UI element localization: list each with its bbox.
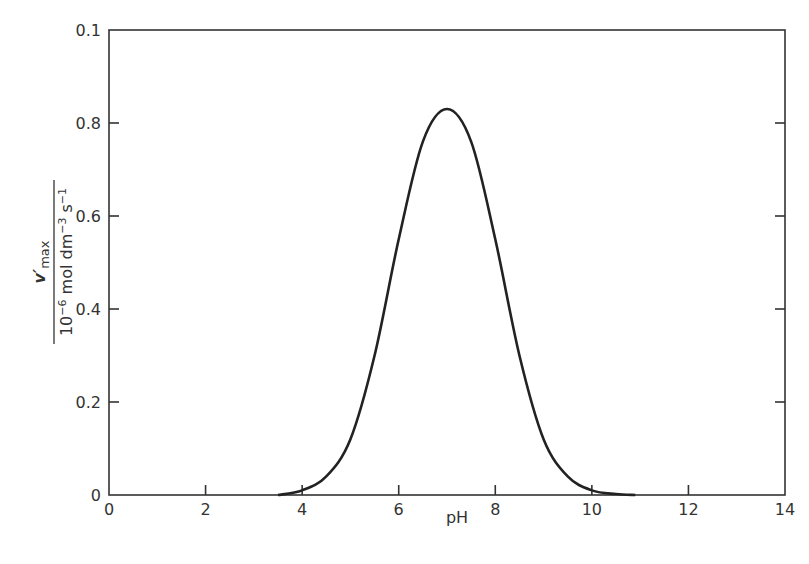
x-tick-label: 6 bbox=[394, 500, 404, 519]
y-axis-label-numerator: v′max bbox=[30, 240, 52, 283]
x-tick-label: 4 bbox=[297, 500, 307, 519]
x-tick-label: 2 bbox=[200, 500, 210, 519]
x-tick-label: 12 bbox=[678, 500, 698, 519]
y-tick-label: 0.6 bbox=[76, 207, 101, 226]
chart: 02468101214 00.20.40.60.80.1 pH v′max 10… bbox=[0, 0, 809, 564]
y-axis-label-denominator: 10−6 mol dm−3 s−1 bbox=[56, 188, 76, 336]
y-tick-label: 0.1 bbox=[76, 21, 101, 40]
y-tick-label: 0.4 bbox=[76, 300, 101, 319]
data-curve bbox=[278, 109, 635, 495]
y-tick-label: 0.2 bbox=[76, 393, 101, 412]
x-tick-label: 8 bbox=[490, 500, 500, 519]
plot-border bbox=[109, 30, 785, 495]
plot-frame bbox=[109, 30, 785, 495]
y-axis: 00.20.40.60.80.1 bbox=[76, 21, 785, 505]
x-tick-label: 10 bbox=[582, 500, 602, 519]
y-tick-label: 0 bbox=[91, 486, 101, 505]
x-tick-label: 0 bbox=[104, 500, 114, 519]
x-tick-label: 14 bbox=[775, 500, 795, 519]
y-tick-label: 0.8 bbox=[76, 114, 101, 133]
x-axis-label: pH bbox=[446, 508, 468, 527]
y-axis-label: v′max 10−6 mol dm−3 s−1 bbox=[30, 180, 76, 344]
